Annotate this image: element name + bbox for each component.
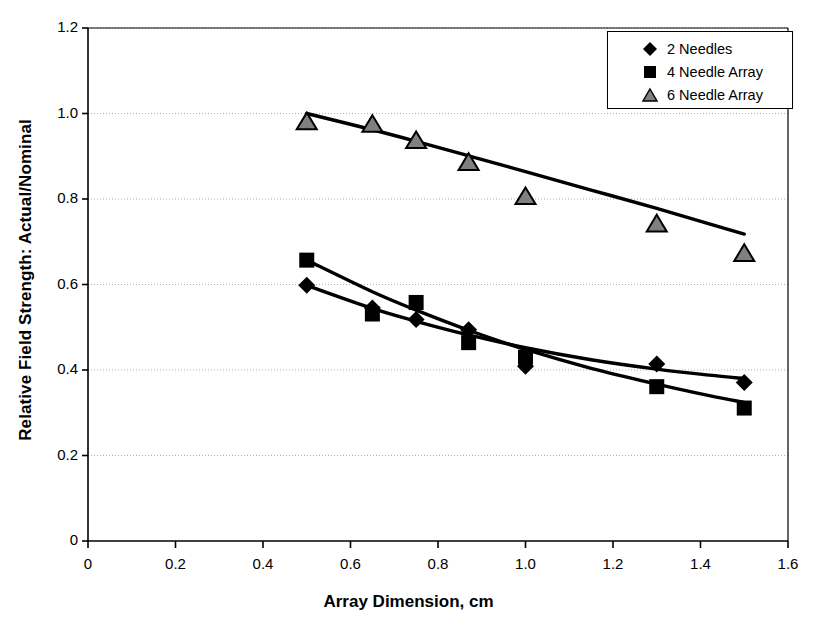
data-point-square bbox=[461, 335, 476, 350]
data-point-square bbox=[409, 295, 424, 310]
y-tick-label: 0.6 bbox=[32, 275, 78, 292]
x-tick-label: 1.4 bbox=[678, 555, 724, 572]
data-point-triangle bbox=[459, 153, 479, 170]
x-tick-label: 0 bbox=[65, 555, 111, 572]
x-tick-label: 0.2 bbox=[153, 555, 199, 572]
chart-container: Relative Field Strength: Actual/Nominal … bbox=[0, 0, 817, 629]
y-tick-label: 0.2 bbox=[32, 446, 78, 463]
legend-label-2-needles: 2 Needles bbox=[667, 41, 732, 57]
data-point-triangle bbox=[734, 244, 754, 261]
legend: 2 Needles 4 Needle Array 6 Needle Array bbox=[607, 31, 793, 109]
x-tick-label: 1.2 bbox=[590, 555, 636, 572]
data-point-square bbox=[649, 379, 664, 394]
data-point-diamond bbox=[298, 277, 315, 294]
x-tick-label: 1.0 bbox=[503, 555, 549, 572]
triangle-marker-icon bbox=[639, 84, 661, 106]
data-point-square bbox=[518, 350, 533, 365]
data-point-square bbox=[299, 253, 314, 268]
data-point-triangle bbox=[362, 115, 382, 132]
y-tick-label: 1.2 bbox=[32, 18, 78, 35]
y-tick-label: 0.8 bbox=[32, 189, 78, 206]
y-tick-label: 1.0 bbox=[32, 104, 78, 121]
y-tick-label: 0.4 bbox=[32, 360, 78, 377]
legend-item-6-needle-array: 6 Needle Array bbox=[608, 83, 792, 106]
x-axis-label: Array Dimension, cm bbox=[0, 592, 817, 612]
diamond-marker-icon bbox=[639, 38, 661, 60]
x-tick-label: 0.6 bbox=[328, 555, 374, 572]
y-tick-label: 0 bbox=[32, 531, 78, 548]
x-tick-label: 1.6 bbox=[765, 555, 811, 572]
legend-label-6-needle-array: 6 Needle Array bbox=[667, 87, 763, 103]
legend-item-2-needles: 2 Needles bbox=[608, 37, 792, 60]
legend-item-4-needle-array: 4 Needle Array bbox=[608, 60, 792, 83]
square-marker-icon bbox=[639, 61, 661, 83]
data-point-square bbox=[365, 306, 380, 321]
data-point-triangle bbox=[516, 187, 536, 204]
trendline-square bbox=[307, 260, 745, 402]
x-tick-label: 0.8 bbox=[415, 555, 461, 572]
data-point-triangle bbox=[647, 215, 667, 232]
legend-label-4-needle-array: 4 Needle Array bbox=[667, 64, 763, 80]
data-point-square bbox=[737, 401, 752, 416]
x-tick-label: 0.4 bbox=[240, 555, 286, 572]
